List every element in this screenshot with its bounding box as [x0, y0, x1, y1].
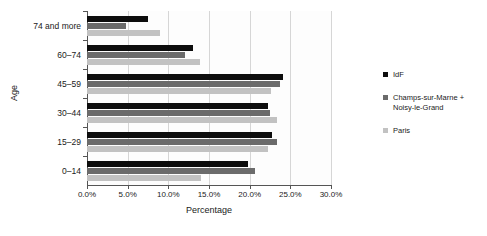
gridline	[331, 11, 332, 185]
x-axis-line	[87, 185, 331, 186]
y-tick	[83, 11, 87, 12]
bar	[87, 59, 200, 65]
legend-entry: Paris	[383, 126, 483, 136]
legend-entry: Champs-sur-Marne + Noisy-le-Grand	[383, 93, 483, 113]
bar	[87, 88, 271, 94]
x-tick-label: 5.0%	[119, 190, 137, 199]
bar	[87, 161, 248, 167]
y-tick-label: 60–74	[57, 50, 81, 60]
bar-group	[87, 11, 331, 40]
y-tick-label: 15–29	[57, 137, 81, 147]
x-tick-label: 25.0%	[279, 190, 302, 199]
bar	[87, 117, 277, 123]
bar	[87, 139, 277, 145]
bar	[87, 81, 280, 87]
y-tick	[83, 156, 87, 157]
x-tick-label: 10.0%	[157, 190, 180, 199]
bar	[87, 45, 193, 51]
bar	[87, 146, 268, 152]
x-tick-label: 20.0%	[238, 190, 261, 199]
bar-group	[87, 40, 331, 69]
plot-area	[87, 11, 331, 185]
bar	[87, 52, 185, 58]
bar-group	[87, 69, 331, 98]
legend-label: Paris	[393, 126, 410, 136]
y-tick	[83, 40, 87, 41]
legend-label: Champs-sur-Marne + Noisy-le-Grand	[393, 93, 483, 113]
y-tick	[83, 98, 87, 99]
bar	[87, 30, 160, 36]
y-axis-title: Age	[9, 63, 19, 123]
legend-label: IdF	[393, 70, 404, 80]
chart-legend: IdFChamps-sur-Marne + Noisy-le-GrandPari…	[383, 70, 483, 150]
x-tick-label: 15.0%	[198, 190, 221, 199]
x-tick	[331, 185, 332, 189]
y-tick-label: 30–44	[57, 108, 81, 118]
bar-group	[87, 127, 331, 156]
legend-swatch	[383, 72, 388, 77]
y-tick-label: 0–14	[62, 166, 81, 176]
bar	[87, 16, 148, 22]
x-tick-label: 0.0%	[78, 190, 96, 199]
y-tick-label: 74 and more	[33, 21, 81, 31]
bar	[87, 168, 255, 174]
bar	[87, 110, 270, 116]
bar	[87, 132, 272, 138]
bar	[87, 74, 283, 80]
bar-group	[87, 98, 331, 127]
legend-swatch	[383, 128, 388, 133]
bar-chart: Age 0.0%5.0%10.0%15.0%20.0%25.0%30.0% 0–…	[0, 0, 487, 236]
y-tick	[83, 69, 87, 70]
legend-entry: IdF	[383, 70, 483, 80]
x-axis-title: Percentage	[87, 205, 331, 215]
y-tick	[83, 127, 87, 128]
x-tick-label: 30.0%	[320, 190, 343, 199]
y-tick-label: 45–59	[57, 79, 81, 89]
bar	[87, 103, 268, 109]
bar-group	[87, 156, 331, 185]
legend-swatch	[383, 95, 388, 100]
bar	[87, 175, 201, 181]
bar	[87, 23, 126, 29]
